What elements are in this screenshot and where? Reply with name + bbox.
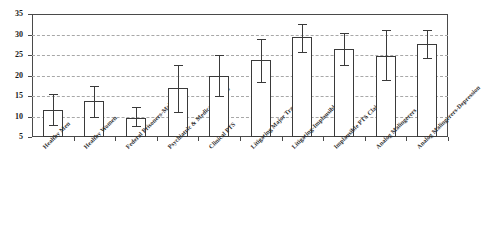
y-axis-tick-label: 30 bbox=[1, 31, 23, 39]
x-tick-mark bbox=[406, 137, 407, 141]
y-axis-tick-label: 10 bbox=[1, 113, 23, 121]
error-bar-cap-upper bbox=[257, 39, 266, 40]
error-bar-line bbox=[261, 39, 262, 81]
error-bar-line bbox=[344, 33, 345, 65]
y-tick-mark bbox=[28, 117, 32, 118]
error-bar-cap-lower bbox=[215, 96, 224, 97]
y-tick-mark bbox=[28, 96, 32, 97]
y-axis-tick-label: 15 bbox=[1, 92, 23, 100]
error-bar-cap-upper bbox=[382, 30, 391, 31]
x-tick-mark bbox=[115, 137, 116, 141]
x-tick-mark bbox=[282, 137, 283, 141]
error-bar-line bbox=[53, 94, 54, 125]
error-bar-line bbox=[386, 30, 387, 79]
error-bar-cap-lower bbox=[340, 65, 349, 66]
error-bar-cap-upper bbox=[340, 33, 349, 34]
x-tick-mark bbox=[74, 137, 75, 141]
y-axis-tick-label: 35 bbox=[1, 10, 23, 18]
error-bar-cap-upper bbox=[49, 94, 58, 95]
error-bar-cap-upper bbox=[423, 30, 432, 31]
error-bar-line bbox=[219, 55, 220, 96]
y-tick-mark bbox=[28, 14, 32, 15]
error-bar-cap-lower bbox=[90, 117, 99, 118]
error-bar-cap-lower bbox=[423, 58, 432, 59]
y-tick-mark bbox=[28, 137, 32, 138]
y-axis-tick-label: 5 bbox=[1, 133, 23, 141]
error-bar-line bbox=[427, 30, 428, 59]
error-bar-line bbox=[178, 65, 179, 111]
x-tick-mark bbox=[365, 137, 366, 141]
x-tick-mark bbox=[198, 137, 199, 141]
y-tick-mark bbox=[28, 55, 32, 56]
x-tick-mark bbox=[448, 137, 449, 141]
error-bar-line bbox=[94, 86, 95, 117]
y-axis-tick-label: 25 bbox=[1, 51, 23, 59]
error-bar-cap-lower bbox=[382, 80, 391, 81]
y-axis-tick-label: 20 bbox=[1, 72, 23, 80]
error-bar-cap-lower bbox=[174, 112, 183, 113]
error-bar-cap-upper bbox=[174, 65, 183, 66]
error-bar-cap-upper bbox=[298, 24, 307, 25]
error-bar-cap-lower bbox=[49, 125, 58, 126]
x-tick-mark bbox=[323, 137, 324, 141]
error-bar-cap-upper bbox=[215, 55, 224, 56]
x-tick-mark bbox=[157, 137, 158, 141]
y-tick-mark bbox=[28, 35, 32, 36]
error-bar-cap-upper bbox=[90, 86, 99, 87]
error-bar-cap-upper bbox=[132, 107, 141, 108]
y-tick-mark bbox=[28, 76, 32, 77]
error-bar-line bbox=[302, 24, 303, 52]
error-bar-cap-lower bbox=[298, 52, 307, 53]
error-bar-cap-lower bbox=[132, 126, 141, 127]
error-bar-line bbox=[136, 107, 137, 127]
error-bar-cap-lower bbox=[257, 82, 266, 83]
x-tick-mark bbox=[240, 137, 241, 141]
